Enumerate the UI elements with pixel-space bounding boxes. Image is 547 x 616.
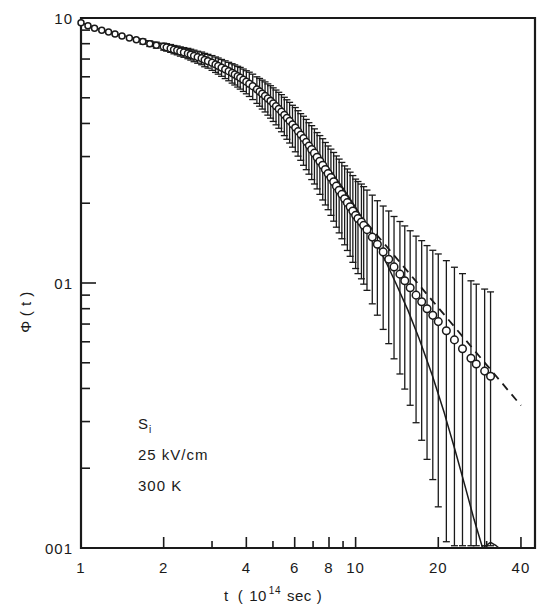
x-tick-label: 2 [159,559,168,576]
data-point [390,263,398,271]
data-point [368,233,376,241]
ylabel-arg: ( t ) [17,291,34,316]
data-point [412,291,420,299]
xlabel-unit: sec [287,587,312,604]
data-point [401,277,409,285]
annotation-material-subscript: i [149,424,152,435]
data-point [406,284,414,292]
data-point [363,226,371,234]
y-axis-label: Φ( t ) [17,291,34,332]
data-point [99,27,105,33]
data-point [85,23,91,29]
data-point [153,42,159,48]
data-point [418,298,426,306]
x-tick-label: 8 [324,559,333,576]
data-point [459,345,467,353]
y-tick-label: 10 [54,10,73,27]
data-point [379,248,387,256]
y-tick-label: 01 [54,275,73,292]
data-point [451,336,459,344]
annotation-temperature: 300 K [138,477,182,494]
data-point [140,39,146,45]
data-point [487,372,495,380]
data-point [434,318,442,326]
data-point [472,360,480,368]
xlabel-exponent: 14 [269,585,281,596]
figure-plot: 12468102040 1001001 t(1014sec) Φ( t ) Si… [0,0,547,616]
data-point [147,41,153,47]
xlabel-close: ) [317,587,323,604]
x-tick-label: 1 [76,559,85,576]
data-point [443,327,451,335]
xlabel-mantissa: 10 [249,587,267,604]
x-tick-label: 6 [290,559,299,576]
xlabel-var: t [224,587,229,604]
data-point [423,305,431,313]
x-tick-label: 10 [346,559,365,576]
data-point [106,29,112,35]
data-point [92,25,98,31]
x-tick-label: 40 [512,559,531,576]
ylabel-symbol: Φ [17,320,34,332]
data-point [429,312,437,320]
annotation-field: 25 kV/cm [138,446,209,463]
xlabel-open: ( [238,587,244,604]
x-tick-label: 4 [242,559,251,576]
data-point [374,240,382,248]
y-tick-label: 001 [45,540,73,557]
data-point [119,33,125,39]
data-point [78,20,84,26]
annotation-material-base: S [138,415,149,432]
data-point [385,255,393,263]
svg-text:Φ( t ): Φ( t ) [17,291,34,332]
data-point [126,35,132,41]
data-point [112,31,118,37]
x-tick-label: 20 [429,559,448,576]
data-point [133,37,139,43]
